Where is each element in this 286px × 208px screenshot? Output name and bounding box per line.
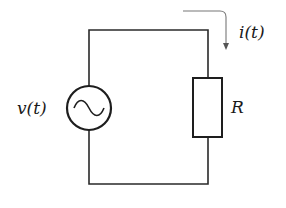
voltage-source-label: v(t) xyxy=(17,98,47,118)
circuit-diagram: i(t) v(t) R xyxy=(0,0,286,208)
wire-bottom xyxy=(89,130,208,184)
current-label: i(t) xyxy=(239,22,265,42)
resistor xyxy=(193,78,222,137)
arrowhead-icon xyxy=(223,43,229,50)
wire-top-left xyxy=(89,30,208,86)
resistor-label: R xyxy=(230,97,244,117)
current-arrow-line xyxy=(183,11,226,44)
ac-voltage-source xyxy=(67,86,111,130)
